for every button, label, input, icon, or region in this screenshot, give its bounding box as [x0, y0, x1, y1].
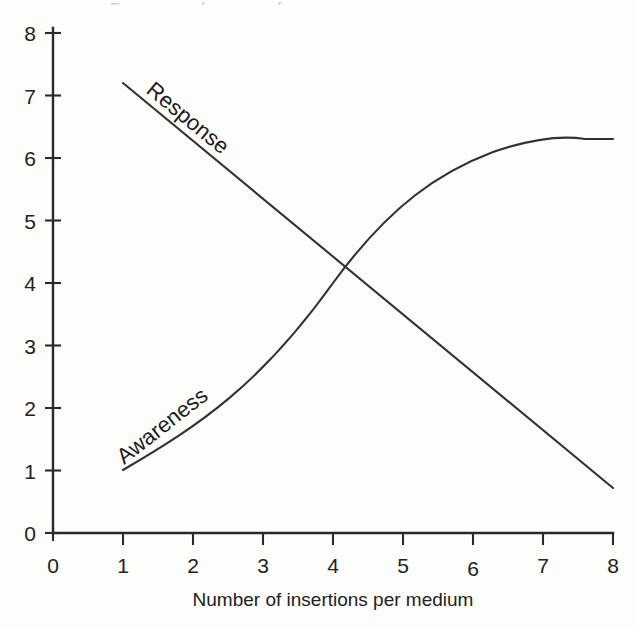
x-tick-label-1: 1: [117, 554, 129, 577]
y-tick-label-0: 0: [24, 522, 36, 545]
x-axis-title: Number of insertions per medium: [193, 589, 474, 610]
x-tick-label-4: 4: [327, 554, 339, 577]
x-tick-label-8: 8: [607, 554, 619, 577]
x-tick-label-5: 5: [397, 554, 409, 577]
series-line-awareness: [123, 138, 613, 470]
y-tick-label-1: 1: [24, 460, 36, 483]
chart-container: Exposure and response frequency 8 7 6 5 …: [0, 0, 636, 628]
x-tick-label-3: 3: [257, 554, 269, 577]
series-line-response: [123, 83, 613, 488]
y-tick-label-3: 3: [24, 335, 36, 358]
series-label-awareness: Awareness: [112, 382, 213, 468]
y-tick-label-7: 7: [24, 85, 36, 108]
series-label-response: Response: [142, 77, 234, 159]
y-tick-label-8: 8: [24, 22, 36, 45]
x-tick-label-2: 2: [187, 554, 199, 577]
y-tick-label-4: 4: [24, 272, 36, 295]
x-tick-label-6: 6: [467, 557, 479, 580]
line-chart-plot: 8 7 6 5 4 3 2 1 0 0 1 2 3 4 5 6 7 8: [0, 0, 636, 628]
x-tick-label-7: 7: [537, 554, 549, 577]
x-tick-label-0: 0: [47, 554, 59, 577]
y-tick-label-6: 6: [24, 147, 36, 170]
x-axis-ticks: [53, 525, 613, 545]
y-tick-label-5: 5: [24, 210, 36, 233]
y-tick-label-2: 2: [24, 397, 36, 420]
